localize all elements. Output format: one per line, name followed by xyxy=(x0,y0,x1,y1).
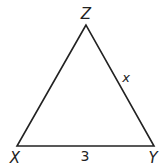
side-label-zy: x xyxy=(121,70,130,85)
vertex-label-z: Z xyxy=(80,5,92,23)
triangle-xyz xyxy=(17,25,154,146)
vertex-label-y: Y xyxy=(148,149,159,167)
triangle-diagram: Z X Y 3 x xyxy=(0,0,165,167)
side-label-xy: 3 xyxy=(81,148,90,164)
triangle-svg: Z X Y 3 x xyxy=(0,0,165,167)
vertex-label-x: X xyxy=(9,149,21,167)
